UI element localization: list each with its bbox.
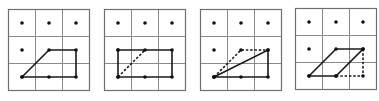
- grid-panel-1: [8, 9, 90, 91]
- grid-dot: [143, 48, 147, 52]
- grid-dot: [361, 47, 365, 51]
- grid-panel-2: [104, 9, 186, 91]
- grid-dot: [239, 75, 243, 79]
- grid-panel-3: [200, 9, 282, 91]
- grid-dot: [361, 20, 365, 24]
- grid-dot: [116, 48, 120, 52]
- grid-dot: [47, 48, 51, 52]
- grid-panel-4: [295, 8, 377, 90]
- grid-dot: [74, 75, 78, 79]
- grid-dot: [116, 75, 120, 79]
- grid-dot: [212, 75, 216, 79]
- grid-dot: [20, 21, 24, 25]
- grid-dot: [334, 47, 338, 51]
- grid-dot: [74, 48, 78, 52]
- grid-dot: [266, 48, 270, 52]
- grid-dot: [47, 75, 51, 79]
- grid-dot: [170, 21, 174, 25]
- grid-dot: [361, 74, 365, 78]
- grid-dot: [307, 47, 311, 51]
- grid-dot: [170, 75, 174, 79]
- grid-dot: [307, 20, 311, 24]
- grid-dot: [212, 48, 216, 52]
- grid-dot: [20, 75, 24, 79]
- grid-dot: [334, 20, 338, 24]
- dot-grid: [104, 9, 186, 91]
- dot-grid: [295, 8, 377, 90]
- grid-dot: [170, 48, 174, 52]
- dot-grid: [200, 9, 282, 91]
- grid-dot: [47, 21, 51, 25]
- grid-dot: [266, 75, 270, 79]
- grid-dot: [74, 21, 78, 25]
- dot-grid: [8, 9, 90, 91]
- grid-dot: [266, 21, 270, 25]
- grid-dot: [334, 74, 338, 78]
- grid-dot: [143, 21, 147, 25]
- grid-dot: [116, 21, 120, 25]
- grid-dot: [20, 48, 24, 52]
- grid-dot: [212, 21, 216, 25]
- grid-dot: [239, 48, 243, 52]
- grid-dot: [143, 75, 147, 79]
- grid-dot: [307, 74, 311, 78]
- grid-dot: [239, 21, 243, 25]
